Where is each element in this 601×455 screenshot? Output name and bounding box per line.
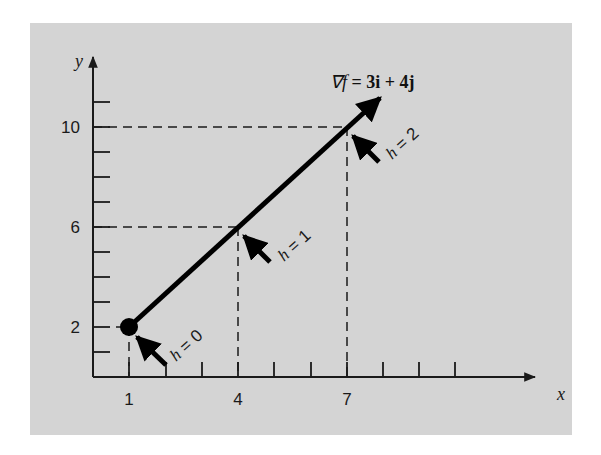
y-axis-label: y [73, 51, 83, 71]
gradient-equation-label: ∇f = 3i + 4j [330, 72, 415, 92]
x-axis-label: x [556, 384, 565, 404]
x-tick-label-7: 7 [342, 390, 351, 409]
gradient-diagram: 1 4 7 2 6 10 x y ∇f = 3i + 4j h = 0 h = … [0, 0, 601, 455]
start-point-marker [120, 318, 138, 336]
y-tick-label-2: 2 [71, 318, 80, 337]
x-tick-label-4: 4 [233, 390, 242, 409]
y-tick-label-6: 6 [71, 218, 80, 237]
x-tick-label-1: 1 [124, 390, 133, 409]
y-tick-label-10: 10 [61, 118, 80, 137]
